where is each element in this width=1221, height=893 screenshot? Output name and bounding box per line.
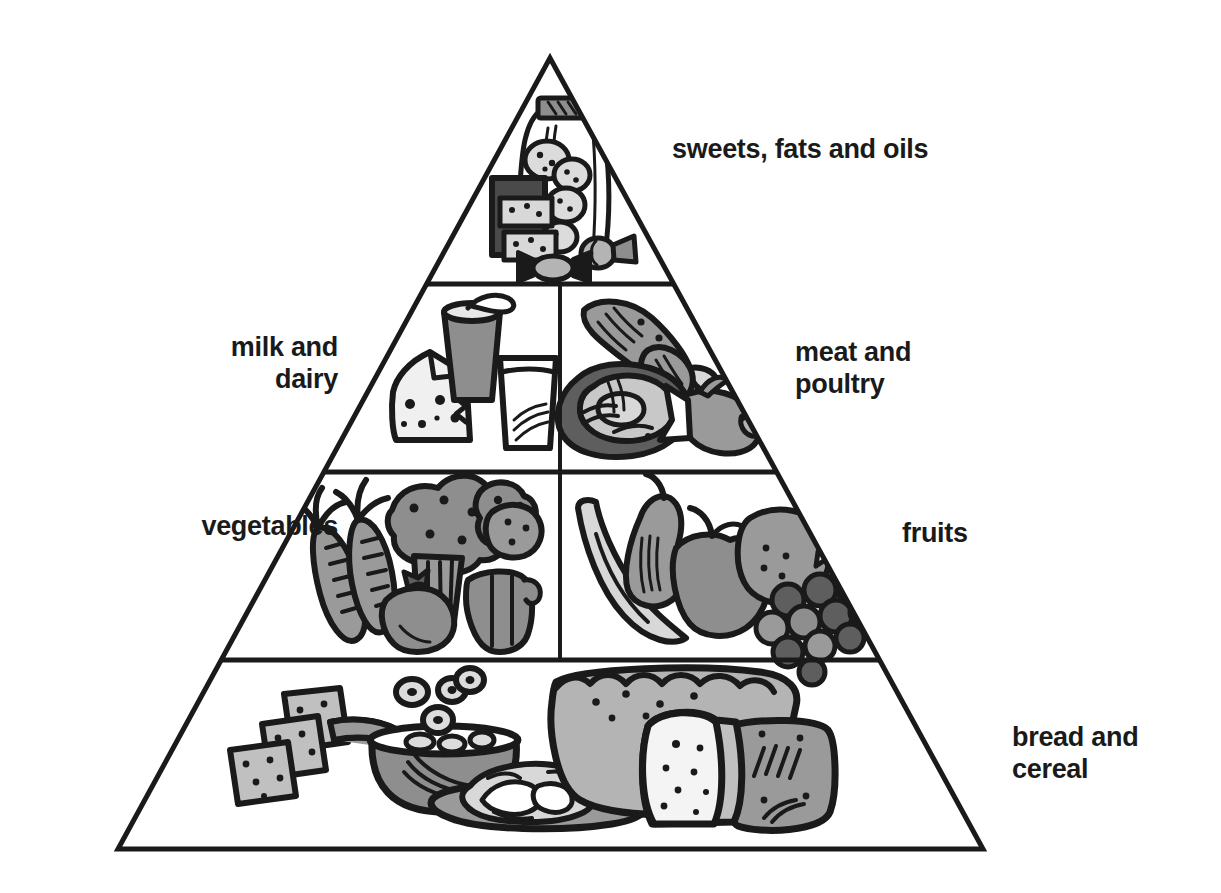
tier-meat-artwork <box>558 302 769 457</box>
food-pyramid-diagram: sweets, fats and oils milk and dairy mea… <box>0 0 1221 893</box>
tier-milk-artwork <box>392 295 556 448</box>
label-milk-and-dairy: milk and dairy <box>30 332 338 396</box>
label-meat-and-poultry: meat and poultry <box>795 337 1095 401</box>
label-fruits: fruits <box>902 518 1142 550</box>
label-sweets-fats-and-oils: sweets, fats and oils <box>672 134 1002 166</box>
tier-fruits-artwork <box>578 474 893 685</box>
label-vegetables: vegetables <box>20 511 338 543</box>
label-bread-and-cereal: bread and cereal <box>1012 722 1221 786</box>
tier-bread-artwork <box>230 668 835 830</box>
tier-vegetables-artwork <box>292 476 542 652</box>
